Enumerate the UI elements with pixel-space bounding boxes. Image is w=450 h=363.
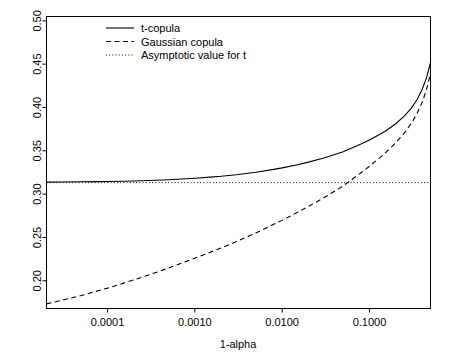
x-axis-ticks bbox=[108, 309, 370, 313]
x-tick-label-0: 0.0001 bbox=[91, 316, 125, 328]
y-tick-label-0: 0.20 bbox=[32, 270, 44, 291]
x-tick-label-2: 0.0100 bbox=[265, 316, 299, 328]
legend-label-0: t-copula bbox=[141, 22, 181, 34]
y-tick-label-2: 0.30 bbox=[32, 183, 44, 204]
x-tick-label-1: 0.0010 bbox=[178, 316, 212, 328]
y-axis-tick-labels: 0.200.250.300.350.400.450.50 bbox=[32, 10, 44, 291]
line-chart: 0.00010.00100.01000.1000 0.200.250.300.3… bbox=[0, 0, 450, 363]
y-tick-label-3: 0.35 bbox=[32, 140, 44, 161]
y-tick-label-4: 0.40 bbox=[32, 97, 44, 118]
legend-label-1: Gaussian copula bbox=[141, 36, 224, 48]
y-tick-label-6: 0.50 bbox=[32, 10, 44, 31]
y-tick-label-1: 0.25 bbox=[32, 227, 44, 248]
series-line-gaussian-copula bbox=[47, 73, 431, 304]
y-tick-label-5: 0.45 bbox=[32, 53, 44, 74]
chart-legend: t-copulaGaussian copulaAsymptotic value … bbox=[106, 22, 246, 61]
x-axis-title: 1-alpha bbox=[220, 338, 258, 350]
legend-label-2: Asymptotic value for t bbox=[141, 49, 246, 61]
x-axis-tick-labels: 0.00010.00100.01000.1000 bbox=[91, 316, 387, 328]
x-tick-label-3: 0.1000 bbox=[353, 316, 387, 328]
data-series-group bbox=[47, 62, 431, 303]
chart-container: 0.00010.00100.01000.1000 0.200.250.300.3… bbox=[0, 0, 450, 363]
